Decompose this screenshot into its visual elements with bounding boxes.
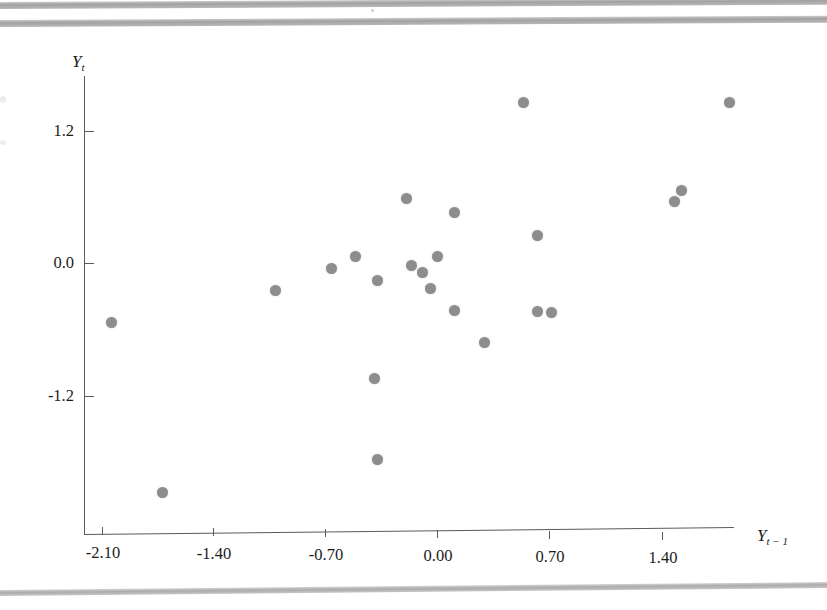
- y-tick-label-0: 1.2: [26, 121, 74, 141]
- data-point: [676, 185, 687, 196]
- x-tick-3: [437, 530, 438, 538]
- data-point: [406, 260, 417, 271]
- data-point: [518, 97, 529, 108]
- x-axis-line: [84, 527, 734, 535]
- y-tick-1: [85, 263, 94, 264]
- data-point: [270, 285, 281, 296]
- y-axis-title: Yt: [72, 52, 85, 73]
- data-point: [532, 306, 543, 317]
- data-point: [401, 193, 412, 204]
- x-tick-label-2: -0.70: [295, 545, 357, 565]
- data-point: [449, 207, 460, 218]
- y-tick-2: [85, 396, 94, 397]
- data-point: [372, 454, 383, 465]
- y-tick-0: [85, 131, 94, 132]
- scatter-plot: Yt Yt − 1 1.2 0.0 -1.2 -2.10 -1.40 -0.70…: [0, 0, 827, 610]
- data-point: [106, 317, 117, 328]
- data-point: [157, 487, 168, 498]
- data-point: [532, 230, 543, 241]
- data-point: [369, 373, 380, 384]
- x-axis-title-subscript: t − 1: [766, 535, 787, 547]
- data-point: [449, 305, 460, 316]
- data-point: [669, 196, 680, 207]
- x-tick-label-3: 0.00: [408, 546, 468, 566]
- y-axis-line: [84, 76, 85, 535]
- x-axis-title: Yt − 1: [757, 526, 788, 547]
- data-point: [372, 275, 383, 286]
- data-point: [417, 267, 428, 278]
- x-tick-5: [662, 532, 663, 540]
- data-point: [724, 97, 735, 108]
- data-point: [350, 251, 361, 262]
- y-tick-label-2: -1.2: [20, 386, 74, 406]
- data-point: [546, 307, 557, 318]
- data-point: [432, 251, 443, 262]
- x-tick-1: [213, 528, 214, 536]
- data-point: [479, 337, 490, 348]
- x-tick-label-4: 0.70: [520, 547, 580, 567]
- x-tick-4: [549, 531, 550, 539]
- data-point: [425, 283, 436, 294]
- x-tick-0: [102, 527, 103, 535]
- x-tick-2: [325, 529, 326, 537]
- y-tick-label-1: 0.0: [26, 253, 74, 273]
- y-axis-title-subscript: t: [81, 61, 84, 73]
- x-tick-label-5: 1.40: [633, 548, 693, 568]
- data-point: [326, 263, 337, 274]
- x-tick-label-1: -1.40: [183, 544, 245, 564]
- x-tick-label-0: -2.10: [72, 543, 134, 563]
